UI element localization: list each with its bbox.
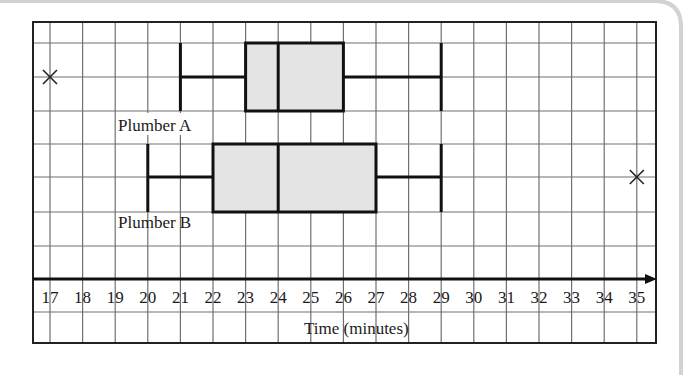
x-tick-label: 33 [563, 288, 580, 307]
x-tick-label: 31 [498, 288, 515, 307]
x-tick-label: 19 [107, 288, 124, 307]
x-tick-label: 18 [74, 288, 91, 307]
x-tick-label: 35 [628, 288, 645, 307]
x-tick-label: 20 [139, 288, 156, 307]
x-tick-label: 34 [596, 288, 614, 307]
x-tick-label: 32 [531, 288, 548, 307]
x-tick-label: 17 [42, 288, 60, 307]
x-tick-label: 29 [433, 288, 450, 307]
iqr-box [246, 43, 344, 111]
boxplot-plumber-b [148, 144, 644, 212]
plumber-a-label: Plumber A [118, 116, 192, 135]
x-axis-title: Time (minutes) [304, 319, 409, 338]
x-tick-label: 25 [302, 288, 319, 307]
boxplot-figure: 17181920212223242526272829303132333435 P… [0, 0, 691, 375]
x-tick-label: 21 [172, 288, 189, 307]
iqr-box [213, 144, 376, 212]
x-tick-label: 30 [465, 288, 482, 307]
x-tick-label: 24 [270, 288, 288, 307]
x-tick-label: 22 [205, 288, 222, 307]
x-axis: 17181920212223242526272829303132333435 [33, 274, 657, 307]
x-tick-label: 26 [335, 288, 352, 307]
x-tick-label: 27 [368, 288, 386, 307]
x-tick-label: 28 [400, 288, 417, 307]
x-tick-label: 23 [237, 288, 254, 307]
plumber-b-label: Plumber B [118, 213, 191, 232]
